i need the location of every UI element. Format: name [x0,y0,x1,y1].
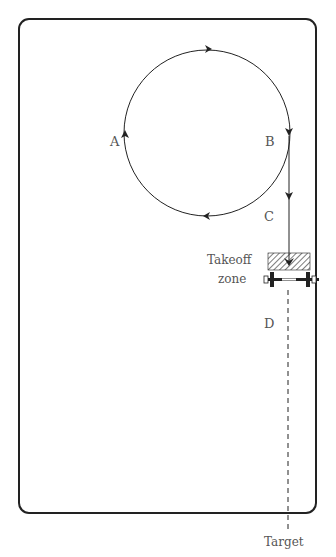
takeoff-label-line2: zone [218,272,246,286]
label-a: A [109,134,120,149]
arrow-top-icon [205,45,212,53]
label-b: B [265,134,275,149]
flight-path-diagram: A B C Takeoff zone D Target [0,0,336,557]
takeoff-label-line1: Takeoff [207,253,253,267]
arrow-right-icon [285,128,293,136]
takeoff-bar [264,272,319,287]
label-c: C [264,209,274,224]
circuit-path [124,50,290,216]
arrow-left-icon [121,130,129,138]
label-d: D [264,316,274,331]
label-target: Target [264,535,304,549]
